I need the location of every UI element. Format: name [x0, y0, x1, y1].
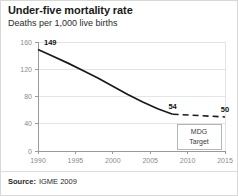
svg-text:0: 0	[28, 148, 32, 155]
svg-text:2000: 2000	[105, 157, 121, 164]
svg-text:54: 54	[168, 102, 177, 111]
svg-text:120: 120	[20, 66, 32, 73]
data-series-group	[38, 49, 225, 116]
svg-text:80: 80	[24, 93, 32, 100]
svg-text:1990: 1990	[30, 157, 46, 164]
svg-text:160: 160	[20, 39, 32, 46]
mdg-target-legend: MDGTarget	[177, 124, 221, 149]
svg-text:MDG: MDG	[191, 128, 207, 135]
svg-text:2015: 2015	[217, 157, 233, 164]
chart-plot: 04080120160199019952000200520102015 1495…	[1, 1, 238, 171]
data-labels-group: 1495450	[44, 38, 229, 113]
source-label: Source:	[8, 177, 36, 186]
svg-text:2005: 2005	[142, 157, 158, 164]
svg-text:149: 149	[44, 38, 57, 47]
source-value: IGME 2009	[39, 177, 77, 186]
chart-figure: Under-five mortality rate Deaths per 1,0…	[0, 0, 238, 196]
svg-text:1995: 1995	[68, 157, 84, 164]
svg-text:50: 50	[221, 105, 229, 114]
svg-text:Target: Target	[189, 138, 209, 146]
svg-text:2010: 2010	[180, 157, 196, 164]
svg-text:40: 40	[24, 120, 32, 127]
source-line: Source:IGME 2009	[8, 177, 77, 186]
source-divider	[1, 171, 237, 172]
